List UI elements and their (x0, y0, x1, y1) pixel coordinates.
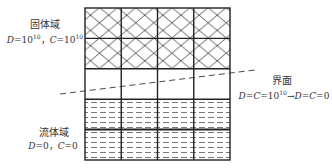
fluid-domain-eq: D=0，C=0 (24, 139, 82, 152)
solid-domain-eq: D=1010，C=1010 (6, 33, 84, 46)
interface-eq: D=C=1010→D=C=0 (236, 89, 332, 101)
interface-title: 界面 (262, 72, 302, 87)
solid-domain-title: 固体域 (25, 16, 65, 31)
fluid-domain-title: 流体域 (34, 124, 74, 139)
